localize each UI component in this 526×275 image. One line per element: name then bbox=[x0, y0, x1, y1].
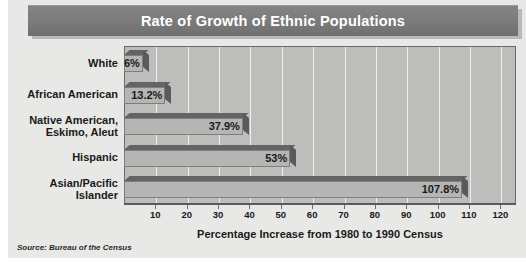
category-label: Asian/PacificIslander bbox=[0, 177, 118, 202]
bar-value-label: 107.8% bbox=[124, 182, 459, 197]
x-tick-label: 90 bbox=[401, 209, 412, 220]
bar-side-face bbox=[462, 176, 468, 198]
x-tick-label: 70 bbox=[338, 209, 349, 220]
bar-row: 6% bbox=[124, 46, 516, 78]
bar-value-label: 6% bbox=[124, 56, 140, 71]
category-label: Hispanic bbox=[0, 151, 118, 164]
x-tick-label: 120 bbox=[492, 209, 508, 220]
x-tick-label: 110 bbox=[461, 209, 476, 220]
category-axis-labels: WhiteAfrican AmericanNative American,Esk… bbox=[0, 46, 118, 204]
x-tick-label: 80 bbox=[370, 209, 381, 220]
bar-value-label: 53% bbox=[124, 151, 287, 166]
chart-figure: Rate of Growth of Ethnic Populations 6%1… bbox=[0, 0, 526, 275]
bar-row: 107.8% bbox=[124, 172, 516, 204]
bar-row: 53% bbox=[124, 141, 516, 173]
x-tick-label: 100 bbox=[430, 209, 446, 220]
x-tick-label: 20 bbox=[181, 209, 192, 220]
x-tick-label: 10 bbox=[150, 209, 161, 220]
category-label: Native American,Eskimo, Aleut bbox=[0, 114, 118, 139]
bar-side-face bbox=[165, 82, 171, 104]
bar-row: 37.9% bbox=[124, 109, 516, 141]
bar-series: 6%13.2%37.9%53%107.8% bbox=[124, 46, 516, 204]
x-axis-line bbox=[124, 203, 516, 205]
bar-side-face bbox=[290, 145, 296, 167]
bar-side-face bbox=[243, 113, 249, 135]
category-label: White bbox=[0, 57, 118, 70]
x-tick-label: 50 bbox=[276, 209, 287, 220]
bar-row: 13.2% bbox=[124, 78, 516, 110]
page-title: Rate of Growth of Ethnic Populations bbox=[141, 13, 405, 29]
chart-title-bar: Rate of Growth of Ethnic Populations bbox=[28, 5, 518, 36]
x-tick-label: 60 bbox=[307, 209, 318, 220]
x-tick-label: 30 bbox=[213, 209, 224, 220]
category-label: African American bbox=[0, 88, 118, 101]
bar-value-label: 37.9% bbox=[124, 119, 240, 134]
source-note: Source: Bureau of the Census bbox=[17, 243, 132, 252]
x-axis-title: Percentage Increase from 1980 to 1990 Ce… bbox=[124, 228, 516, 240]
bar-value-label: 13.2% bbox=[124, 88, 162, 103]
bar-side-face bbox=[143, 50, 149, 72]
x-tick-label: 40 bbox=[244, 209, 255, 220]
